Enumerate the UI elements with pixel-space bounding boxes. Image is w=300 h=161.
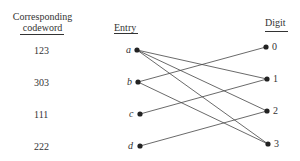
entry-node-d	[137, 143, 142, 148]
entry-node-b	[135, 79, 140, 84]
digit-node-1	[264, 76, 269, 81]
bipartite-graph	[0, 0, 300, 161]
edge-d-2	[140, 111, 267, 146]
digit-node-2	[264, 108, 269, 113]
edge-a-2	[137, 50, 267, 111]
entry-node-a	[134, 47, 139, 52]
digit-node-3	[265, 141, 270, 146]
edge-c-1	[140, 79, 267, 114]
digit-node-0	[263, 44, 268, 49]
edge-b-3	[138, 82, 268, 144]
entry-node-c	[137, 111, 142, 116]
edges	[137, 47, 268, 146]
